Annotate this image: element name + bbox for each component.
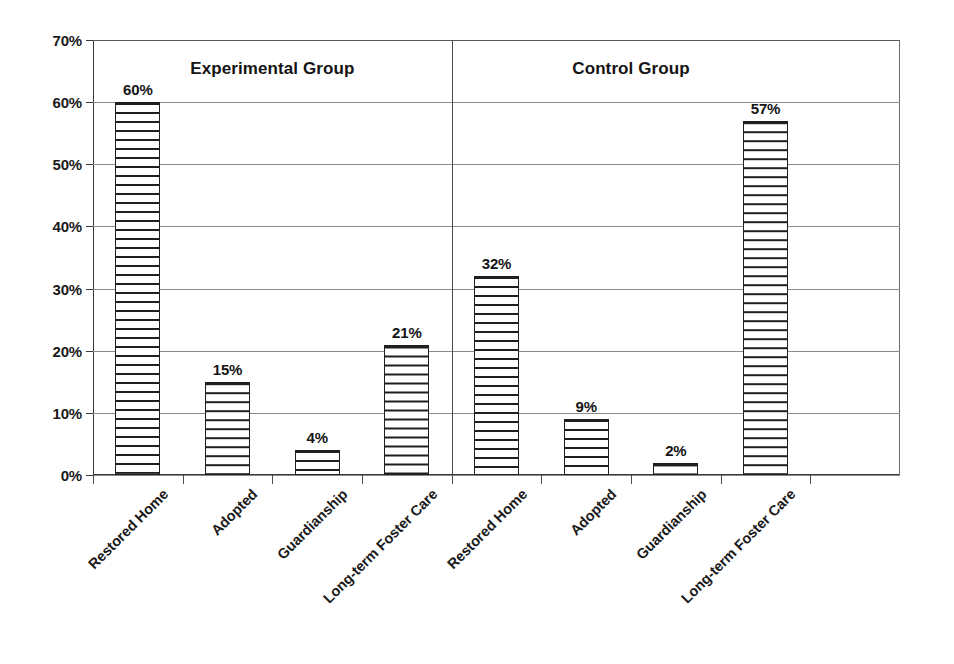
category-label: Restored Home <box>444 486 530 572</box>
y-axis-tick-label: 70% <box>53 32 82 49</box>
y-axis-tick <box>86 289 93 290</box>
y-axis-tick <box>86 226 93 227</box>
y-axis-tick-label: 40% <box>53 218 82 235</box>
bar-value-label: 15% <box>213 361 242 378</box>
y-axis-tick-label: 20% <box>53 342 82 359</box>
y-axis-tick-label: 30% <box>53 280 82 297</box>
bar[interactable]: 60% <box>115 102 160 475</box>
category-label: Adopted <box>208 486 260 538</box>
category-label: Guardianship <box>274 486 351 563</box>
y-axis-line <box>93 40 94 475</box>
y-axis-tick-label: 60% <box>53 94 82 111</box>
bar[interactable]: 9% <box>564 419 609 475</box>
y-axis-tick <box>86 475 93 476</box>
bar-value-label: 9% <box>576 398 597 415</box>
bar-value-label: 60% <box>123 81 152 98</box>
x-axis-tick <box>183 475 184 484</box>
y-axis-tick <box>86 164 93 165</box>
group-divider <box>452 40 453 475</box>
y-axis-tick <box>86 351 93 352</box>
y-axis-tick-label: 10% <box>53 404 82 421</box>
chart-page: 0%10%20%30%40%50%60%70% 60%15%4%21%32%9%… <box>0 0 954 664</box>
y-axis-tick-label: 0% <box>61 467 82 484</box>
bar-value-label: 21% <box>392 324 421 341</box>
gridline <box>93 40 900 41</box>
y-axis-tick <box>86 40 93 41</box>
bar[interactable]: 4% <box>295 450 340 475</box>
category-label: Restored Home <box>85 486 171 572</box>
y-axis-tick-label: 50% <box>53 156 82 173</box>
bar[interactable]: 15% <box>205 382 250 475</box>
bar-value-label: 57% <box>751 100 780 117</box>
category-label: Adopted <box>567 486 619 538</box>
bar-value-label: 32% <box>482 255 511 272</box>
group-title: Experimental Group <box>190 59 354 79</box>
plot-right-border <box>899 40 900 475</box>
x-axis-tick <box>452 475 453 484</box>
bar-value-label: 2% <box>665 442 686 459</box>
x-axis-tick <box>362 475 363 484</box>
bar[interactable]: 57% <box>743 121 788 475</box>
gridline <box>93 475 900 476</box>
group-title: Control Group <box>572 59 689 79</box>
x-axis-tick <box>631 475 632 484</box>
bar[interactable]: 2% <box>653 463 698 475</box>
x-axis-tick <box>541 475 542 484</box>
bar[interactable]: 21% <box>384 345 429 476</box>
x-axis-tick <box>810 475 811 484</box>
x-axis-tick <box>272 475 273 484</box>
y-axis-tick <box>86 413 93 414</box>
y-axis-tick <box>86 102 93 103</box>
x-axis-tick <box>93 475 94 484</box>
category-label: Guardianship <box>633 486 710 563</box>
bar[interactable]: 32% <box>474 276 519 475</box>
bar-value-label: 4% <box>307 429 328 446</box>
x-axis-tick <box>721 475 722 484</box>
plot-area: 0%10%20%30%40%50%60%70% 60%15%4%21%32%9%… <box>93 40 900 475</box>
